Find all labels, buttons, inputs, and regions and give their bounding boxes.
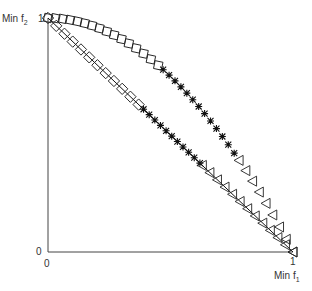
concave-front-asterisk-point <box>183 90 190 97</box>
concave-front-asterisk-point <box>189 96 196 103</box>
concave-front-triangle-left-point <box>254 187 263 197</box>
concave-front-asterisk-point <box>219 133 226 140</box>
concave-front-asterisk-point <box>195 103 202 110</box>
concave-front-triangle-left-point <box>275 222 284 232</box>
y-axis-label: Min f2 <box>2 13 28 26</box>
linear-front-asterisk-point <box>151 117 158 124</box>
concave-front-triangle-left-point <box>281 234 290 244</box>
concave-front-square-point <box>146 55 155 64</box>
concave-front-asterisk-point <box>171 77 178 84</box>
linear-front-asterisk-point <box>157 122 164 129</box>
concave-front-asterisk-point <box>213 125 220 132</box>
concave-front-asterisk-point <box>201 110 208 117</box>
concave-front-asterisk-point <box>166 72 173 79</box>
concave-front-triangle-left-point <box>261 198 270 208</box>
concave-front-triangle-left-point <box>234 155 243 165</box>
x-axis-label: Min f1 <box>274 270 300 283</box>
linear-front-asterisk-point <box>174 138 181 145</box>
linear-front-asterisk-point <box>163 127 170 134</box>
concave-front-asterisk-point <box>207 117 214 124</box>
x-tick-1: 1 <box>290 256 296 267</box>
x-tick-0: 0 <box>44 258 50 269</box>
concave-front-asterisk-point <box>225 141 232 148</box>
linear-front-asterisk-point <box>185 149 192 156</box>
linear-front-asterisk-point <box>140 106 147 113</box>
linear-front-asterisk-point <box>179 143 186 150</box>
linear-front-asterisk-point <box>168 133 175 140</box>
concave-front-triangle-left-point <box>248 176 257 186</box>
concave-front-asterisk-point <box>231 150 238 157</box>
concave-front-triangle-left-point <box>241 166 250 176</box>
pareto-front-chart: Min f2 1 0 0 1 Min f1 <box>0 0 312 291</box>
y-tick-0: 0 <box>36 246 42 257</box>
concave-front-asterisk-point <box>177 83 184 90</box>
linear-front-asterisk-point <box>191 154 198 161</box>
linear-front-asterisk-point <box>146 111 153 118</box>
y-tick-1: 1 <box>38 13 44 24</box>
concave-front-triangle-left-point <box>268 210 277 220</box>
concave-front-asterisk-point <box>160 66 167 73</box>
